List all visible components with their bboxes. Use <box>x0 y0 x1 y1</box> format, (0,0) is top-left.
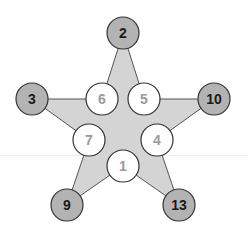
outer-node-9: 9 <box>51 189 83 221</box>
node-label: 6 <box>98 91 106 107</box>
node-label: 4 <box>153 132 161 148</box>
star-diagram: 2 3 10 9 13 6 5 7 4 1 <box>0 0 248 235</box>
node-label: 10 <box>206 91 222 107</box>
node-label: 5 <box>140 91 148 107</box>
inner-node-4: 4 <box>141 124 173 156</box>
inner-node-1: 1 <box>107 150 139 182</box>
inner-node-7: 7 <box>73 124 105 156</box>
outer-node-10: 10 <box>198 83 230 115</box>
node-label: 2 <box>119 25 127 41</box>
node-label: 1 <box>119 158 127 174</box>
outer-node-2: 2 <box>107 17 139 49</box>
outer-node-13: 13 <box>163 189 195 221</box>
node-label: 7 <box>85 132 93 148</box>
inner-node-5: 5 <box>128 83 160 115</box>
node-label: 13 <box>171 197 187 213</box>
inner-node-6: 6 <box>86 83 118 115</box>
outer-node-3: 3 <box>16 83 48 115</box>
node-label: 3 <box>28 91 36 107</box>
node-label: 9 <box>63 197 71 213</box>
